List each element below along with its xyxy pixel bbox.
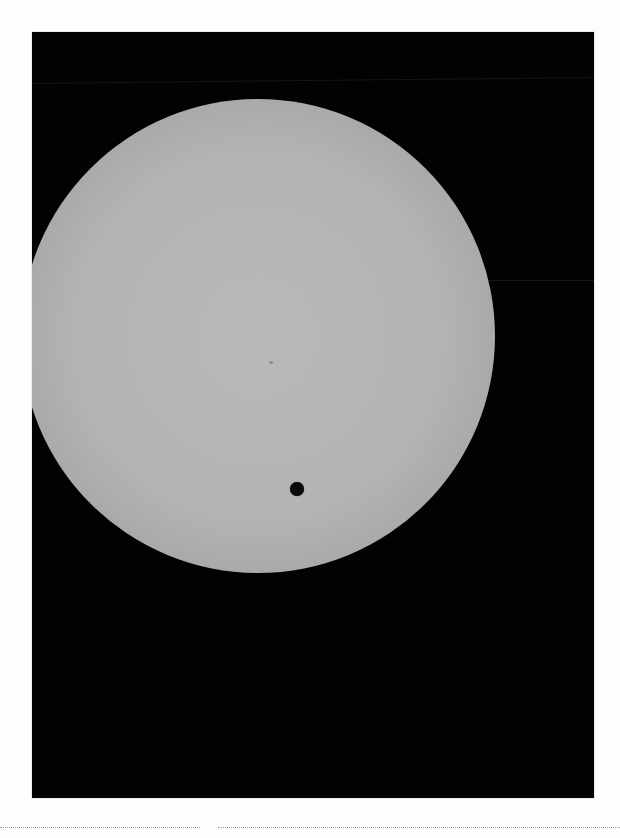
sunspot <box>269 361 273 364</box>
dotted-rule-left <box>0 827 200 828</box>
sensor-streak <box>32 77 594 84</box>
sun-disk <box>32 99 495 573</box>
dotted-rule-right <box>218 827 620 828</box>
venus-silhouette <box>290 482 304 496</box>
photo-frame <box>32 32 594 798</box>
